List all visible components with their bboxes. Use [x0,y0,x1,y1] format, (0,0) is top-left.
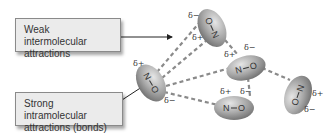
svg-text:δ−: δ− [164,96,176,105]
weak-label-line2: attractions [24,48,114,60]
svg-text:δ+: δ+ [133,59,145,68]
weak-attractions-label: Weak intermolecular attractions [15,18,121,52]
svg-text:δ+: δ+ [224,50,236,59]
strong-label-line2: attractions (bonds) [24,122,116,134]
molecule-lower: N O [214,96,254,120]
svg-text:N: N [223,103,230,113]
svg-text:δ+: δ+ [192,33,204,42]
svg-text:δ−: δ− [240,87,252,96]
svg-text:O: O [238,103,245,113]
svg-text:δ−: δ− [244,43,256,52]
svg-text:δ−: δ− [304,105,316,114]
strong-label-line1: Strong intramolecular [24,98,116,122]
svg-text:δ+: δ+ [220,87,232,96]
weak-label-line1: Weak intermolecular [24,24,114,48]
svg-text:δ−: δ− [188,11,200,20]
strong-attractions-label: Strong intramolecular attractions (bonds… [15,92,123,126]
svg-text:δ+: δ+ [312,89,324,98]
